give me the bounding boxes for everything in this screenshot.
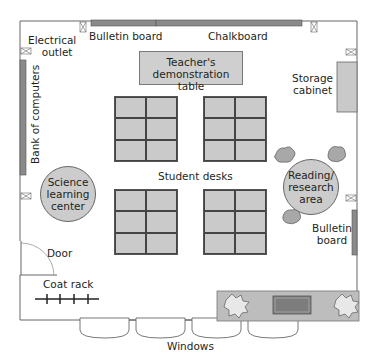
teacher-demonstration-table: Teacher's demonstration table	[139, 51, 243, 85]
student-desk	[235, 118, 266, 139]
student-desk	[204, 233, 235, 254]
student-desk	[204, 211, 235, 232]
student-desk	[115, 97, 146, 118]
storage-cabinet-label: Storage cabinet	[292, 72, 333, 96]
bulletin-board-top-label: Bulletin board	[89, 30, 163, 42]
student-desk	[204, 118, 235, 139]
bank-of-computers-label: Bank of computers	[29, 65, 41, 164]
student-desk	[204, 140, 235, 161]
student-desk	[235, 97, 266, 118]
reading-research-area: Reading/ research area	[283, 159, 339, 215]
desk-cluster-top-right	[203, 96, 267, 162]
student-desk	[146, 118, 177, 139]
desk-cluster-bottom-left	[114, 189, 178, 255]
door-label: Door	[47, 247, 72, 259]
bulletin-board-right-label: Bulletin board	[312, 222, 352, 246]
student-desk	[146, 140, 177, 161]
science-learning-center: Science learning center	[40, 166, 96, 222]
student-desk	[115, 233, 146, 254]
student-desk	[204, 190, 235, 211]
coat-rack-label: Coat rack	[43, 278, 93, 290]
student-desk	[115, 211, 146, 232]
electrical-outlet-label: Electrical outlet	[28, 34, 76, 58]
student-desk	[235, 140, 266, 161]
student-desk	[146, 190, 177, 211]
student-desk	[115, 118, 146, 139]
desk-cluster-bottom-right	[203, 189, 267, 255]
student-desk	[204, 97, 235, 118]
student-desk	[115, 140, 146, 161]
student-desk	[146, 233, 177, 254]
chalkboard-label: Chalkboard	[208, 30, 268, 42]
student-desk	[146, 97, 177, 118]
desk-cluster-top-left	[114, 96, 178, 162]
student-desks-label: Student desks	[158, 170, 233, 182]
student-desk	[146, 211, 177, 232]
student-desk	[115, 190, 146, 211]
student-desk	[235, 233, 266, 254]
student-desk	[235, 190, 266, 211]
student-desk	[235, 211, 266, 232]
windows-label: Windows	[167, 340, 214, 352]
